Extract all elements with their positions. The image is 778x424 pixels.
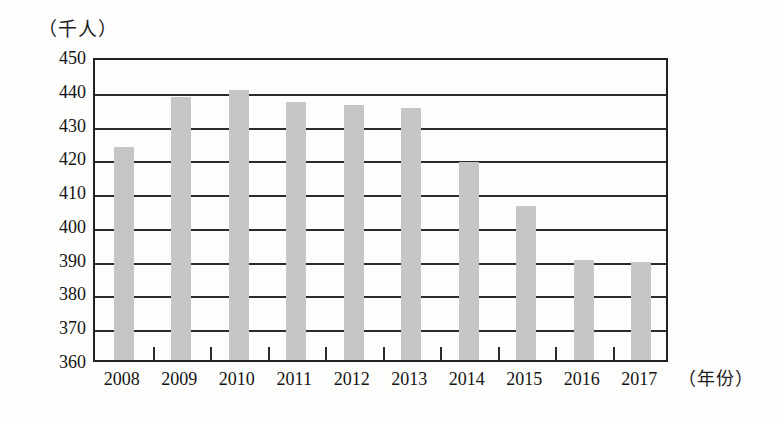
bar-chart-figure: （千人） 450440430420410400390380370360 2008… — [0, 0, 778, 424]
x-axis-tick-label: 2017 — [609, 368, 669, 390]
x-axis-tick-mark — [498, 347, 500, 360]
bar — [229, 90, 249, 360]
bar — [286, 102, 306, 360]
bar — [171, 97, 191, 360]
x-axis-unit-label: （年份） — [678, 368, 754, 390]
bar — [114, 147, 134, 360]
gridline — [95, 94, 666, 96]
x-axis-tick-mark — [555, 347, 557, 360]
bar — [574, 260, 594, 360]
bar — [459, 162, 479, 360]
y-axis-tick-label-group: 450440430420410400390380370360 — [36, 0, 86, 424]
x-axis-tick-mark — [325, 347, 327, 360]
bar — [631, 262, 651, 360]
x-axis-tick-label: 2013 — [379, 368, 439, 390]
y-axis-tick-label: 410 — [38, 184, 86, 202]
x-axis-tick-label-group: 2008200920102011201220132014201520162017 — [0, 368, 778, 398]
x-axis-tick-label: 2015 — [494, 368, 554, 390]
y-axis-tick-label: 420 — [38, 150, 86, 168]
x-axis-tick-label: 2016 — [552, 368, 612, 390]
bar — [401, 108, 421, 360]
x-axis-tick-mark — [210, 347, 212, 360]
y-axis-tick-label: 450 — [38, 49, 86, 67]
y-axis-tick-label: 370 — [38, 319, 86, 337]
x-axis-tick-label: 2012 — [322, 368, 382, 390]
x-axis-tick-label: 2014 — [437, 368, 497, 390]
y-axis-tick-label: 380 — [38, 285, 86, 303]
x-axis-tick-label: 2009 — [149, 368, 209, 390]
y-axis-tick-label: 430 — [38, 117, 86, 135]
bar — [516, 206, 536, 360]
x-axis-tick-label: 2008 — [92, 368, 152, 390]
x-axis-tick-mark — [440, 347, 442, 360]
x-axis-tick-label: 2010 — [207, 368, 267, 390]
x-axis-tick-mark — [153, 347, 155, 360]
y-axis-tick-label: 390 — [38, 252, 86, 270]
bar — [344, 105, 364, 360]
x-axis-tick-label: 2011 — [264, 368, 324, 390]
y-axis-tick-label: 400 — [38, 218, 86, 236]
x-axis-tick-mark — [613, 347, 615, 360]
x-axis-tick-mark — [268, 347, 270, 360]
plot-area — [93, 58, 668, 362]
x-axis-tick-mark — [383, 347, 385, 360]
y-axis-tick-label: 440 — [38, 83, 86, 101]
